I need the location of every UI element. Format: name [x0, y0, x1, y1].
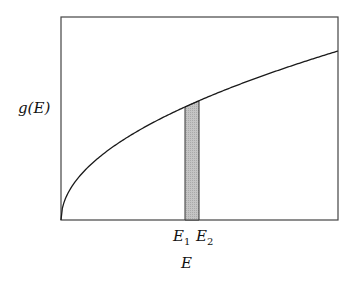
density-of-states-figure: g(E) E1 E2 E — [0, 0, 355, 281]
e2-tick-label: E2 — [196, 227, 213, 247]
shaded-energy-interval — [185, 101, 199, 220]
x-axis-label: E — [181, 254, 192, 272]
e1-tick-label: E1 — [173, 227, 190, 247]
y-axis-label: g(E) — [18, 99, 50, 117]
